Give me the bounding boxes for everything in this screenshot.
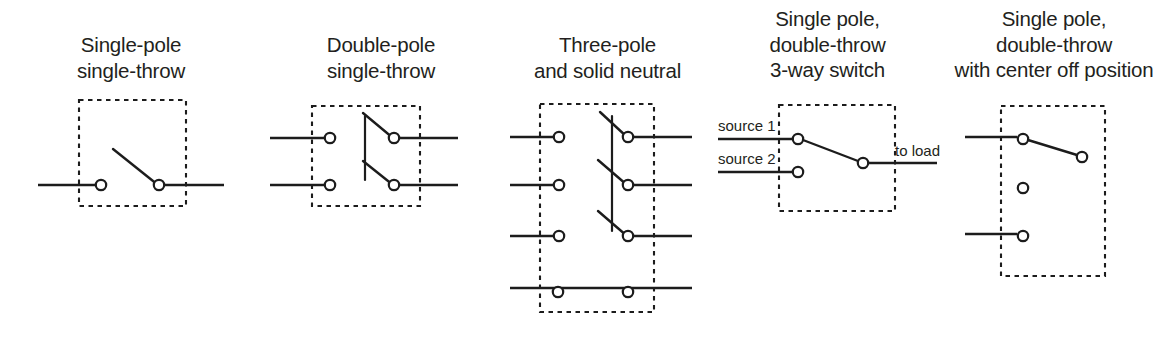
terminal-contact (325, 133, 335, 143)
switch-blade (803, 140, 858, 161)
terminal-contact (554, 180, 564, 190)
neutral-terminal-contact (623, 287, 633, 297)
switch-symbols-figure: Single-pole single-throw Double-pole sin… (0, 0, 1168, 342)
terminal-contact (96, 180, 106, 190)
panel-single-pole-double-throw-3-way: Single pole, double-throw 3-way switch s… (715, 0, 940, 342)
switch-enclosure (79, 100, 186, 206)
panel-three-pole-and-solid-neutral: Three-pole and solid neutral (500, 0, 715, 342)
switch-enclosure (1001, 106, 1105, 276)
terminal-contact (554, 231, 564, 241)
switch-blade (113, 149, 158, 185)
neutral-terminal-contact (553, 287, 563, 297)
panel-schematic (715, 0, 940, 342)
terminal-contact-throw (1077, 152, 1087, 162)
terminal-contact-source-2 (793, 167, 803, 177)
switch-blade (363, 161, 393, 185)
terminal-contact-upper (1018, 134, 1028, 144)
terminal-contact-pivot (623, 132, 633, 142)
switch-enclosure (779, 105, 895, 211)
terminal-contact-source-1 (793, 134, 803, 144)
to-load-label: to load (895, 143, 940, 159)
terminal-contact-lower (1018, 231, 1028, 241)
terminal-contact (554, 132, 564, 142)
source-1-label: source 1 (718, 118, 776, 134)
terminal-contact-pivot (623, 231, 633, 241)
terminal-contact (325, 180, 335, 190)
panel-double-pole-single-throw: Double-pole single-throw (262, 0, 500, 342)
source-2-label: source 2 (718, 151, 776, 167)
terminal-contact-common (858, 158, 868, 168)
switch-blade (1028, 140, 1077, 155)
panel-schematic (262, 0, 500, 342)
switch-blade (363, 113, 393, 138)
terminal-contact-pivot (623, 180, 633, 190)
panel-single-pole-double-throw-center-off: Single pole, double-throw with center of… (940, 0, 1168, 342)
terminal-contact-center-off (1018, 183, 1028, 193)
panel-schematic (0, 0, 262, 342)
panel-schematic (940, 0, 1168, 342)
terminal-contact-pivot (154, 180, 164, 190)
panel-single-pole-single-throw: Single-pole single-throw (0, 0, 262, 342)
terminal-contact-pivot (389, 180, 399, 190)
terminal-contact-pivot (389, 133, 399, 143)
panel-schematic (500, 0, 715, 342)
